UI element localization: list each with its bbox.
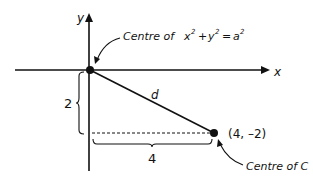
svg-text:y: y xyxy=(207,30,215,43)
centre-c-pointer-arrow-icon xyxy=(220,144,243,165)
svg-text:2: 2 xyxy=(240,28,245,36)
svg-text:+: + xyxy=(198,30,207,43)
y-axis-arrow-icon xyxy=(85,13,93,22)
y-axis-label: y xyxy=(76,11,85,25)
centre-c-point xyxy=(210,129,218,137)
svg-text:a: a xyxy=(233,30,240,43)
svg-text:=: = xyxy=(222,30,231,43)
distance-diagram: x y d Centre of x 2 + y 2 = a 2 (4, –2) … xyxy=(0,0,313,183)
point-label: (4, –2) xyxy=(228,127,266,141)
svg-text:x: x xyxy=(183,30,191,43)
origin-pointer-head-icon xyxy=(94,56,100,64)
origin-label-prefix: Centre of xyxy=(123,30,176,43)
origin-point xyxy=(86,66,94,74)
centre-c-caption: Centre of C xyxy=(246,160,309,173)
svg-text:2: 2 xyxy=(191,28,196,36)
horizontal-brace-icon xyxy=(93,139,212,147)
segment-d-label: d xyxy=(151,88,159,102)
centre-c-pointer-head-icon xyxy=(217,139,223,147)
x-axis: x xyxy=(15,65,282,79)
origin-equation: x 2 + y 2 = a 2 xyxy=(183,28,245,43)
vertical-brace-icon xyxy=(76,72,84,134)
x-axis-arrow-icon xyxy=(261,66,270,74)
origin-pointer-arrow-icon xyxy=(97,38,120,60)
horizontal-measure: 4 xyxy=(148,151,156,166)
x-axis-label: x xyxy=(273,65,282,79)
svg-text:2: 2 xyxy=(215,28,220,36)
vertical-measure: 2 xyxy=(64,96,72,111)
